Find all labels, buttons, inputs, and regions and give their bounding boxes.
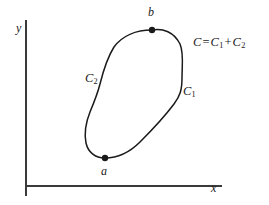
point-b-label: b: [148, 6, 154, 18]
equation-term2-base: C: [233, 35, 241, 49]
curve-c1: [105, 30, 183, 158]
curve-c2-label: C2: [85, 72, 98, 85]
figure-container: y x b a C1 C2 C=C1+C2: [0, 0, 269, 205]
point-a-label: a: [101, 165, 107, 177]
equation-term1-base: C: [211, 35, 219, 49]
point-a-marker: [102, 155, 108, 161]
equation-equals-sign: =: [201, 35, 210, 49]
equation-plus-sign: +: [223, 35, 232, 49]
point-b-marker: [149, 27, 155, 33]
curve-c2-label-subscript: 2: [93, 77, 97, 86]
x-axis-label: x: [211, 182, 216, 194]
equation-label: C=C1+C2: [193, 36, 245, 49]
curve-c1-label: C1: [183, 85, 196, 98]
y-axis-label: y: [16, 22, 21, 34]
equation-term2-subscript: 2: [241, 41, 245, 50]
equation-term1-subscript: 1: [219, 41, 223, 50]
curve-c2: [85, 30, 152, 158]
figure-canvas: [0, 0, 269, 205]
curve-c1-label-subscript: 1: [191, 90, 195, 99]
